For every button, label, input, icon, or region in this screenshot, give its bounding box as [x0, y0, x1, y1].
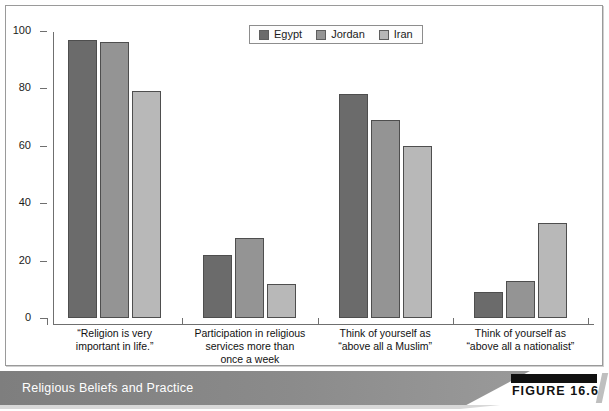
legend-swatch-icon — [259, 30, 269, 40]
category-label-line: once a week — [182, 353, 317, 366]
legend-item-jordan[interactable]: Jordan — [316, 29, 365, 40]
chart-legend: EgyptJordanIran — [249, 25, 423, 44]
chart-panel: EgyptJordanIran 020406080100 “Religion i… — [5, 5, 603, 366]
y-tick-label: 80 — [5, 82, 31, 93]
bar-jordan-group2 — [235, 238, 264, 318]
bar-iran-group2 — [267, 284, 296, 318]
category-label-line: “above all a nationalist” — [453, 340, 588, 353]
x-group-tick — [588, 318, 589, 325]
x-group-tick — [453, 318, 454, 325]
category-label-4: Think of yourself as“above all a nationa… — [453, 327, 588, 353]
category-label-line: Think of yourself as — [453, 327, 588, 340]
bar-iran-group1 — [132, 91, 161, 318]
y-tick-label: 0 — [5, 312, 31, 323]
category-label-line: services more than — [182, 340, 317, 353]
category-label-line: Participation in religious — [182, 327, 317, 340]
y-tick-mark — [40, 203, 47, 204]
legend-item-iran[interactable]: Iran — [379, 29, 413, 40]
bar-iran-group4 — [538, 223, 567, 318]
y-tick-label: 60 — [5, 140, 31, 151]
y-tick-label: 40 — [5, 197, 31, 208]
y-axis-line — [53, 32, 54, 325]
category-label-line: important in life.” — [47, 340, 182, 353]
x-axis-line — [53, 324, 594, 325]
bar-iran-group3 — [403, 146, 432, 318]
y-tick-mark — [40, 261, 47, 262]
caption-bar: Religious Beliefs and Practice FIGURE 16… — [0, 371, 609, 411]
x-origin-tick — [47, 318, 48, 325]
bar-egypt-group1 — [68, 40, 97, 318]
figure-root: EgyptJordanIran 020406080100 “Religion i… — [0, 0, 609, 411]
category-label-line: “above all a Muslim” — [318, 340, 453, 353]
legend-label: Jordan — [331, 29, 365, 40]
bar-jordan-group1 — [100, 42, 129, 318]
y-tick-mark — [40, 318, 47, 319]
legend-item-egypt[interactable]: Egypt — [259, 29, 302, 40]
bar-jordan-group4 — [506, 281, 535, 318]
bar-egypt-group4 — [474, 292, 503, 318]
figure-number-rule — [511, 374, 597, 383]
category-label-2: Participation in religiousservices more … — [182, 327, 317, 366]
caption-shadow — [0, 405, 500, 409]
bar-egypt-group3 — [339, 94, 368, 318]
legend-swatch-icon — [316, 30, 326, 40]
category-label-line: Think of yourself as — [318, 327, 453, 340]
category-label-3: Think of yourself as“above all a Muslim” — [318, 327, 453, 353]
legend-label: Iran — [394, 29, 413, 40]
y-tick-mark — [40, 146, 47, 147]
x-group-tick — [318, 318, 319, 325]
y-tick-mark — [40, 31, 47, 32]
category-label-line: “Religion is very — [47, 327, 182, 340]
x-group-tick — [182, 318, 183, 325]
y-tick-mark — [40, 88, 47, 89]
y-tick-label: 100 — [5, 25, 31, 36]
bar-jordan-group3 — [371, 120, 400, 318]
legend-swatch-icon — [379, 30, 389, 40]
legend-label: Egypt — [274, 29, 302, 40]
category-label-1: “Religion is veryimportant in life.” — [47, 327, 182, 353]
caption-title: Religious Beliefs and Practice — [22, 380, 193, 396]
bar-egypt-group2 — [203, 255, 232, 318]
y-tick-label: 20 — [5, 255, 31, 266]
figure-number: FIGURE 16.6 — [507, 384, 599, 399]
